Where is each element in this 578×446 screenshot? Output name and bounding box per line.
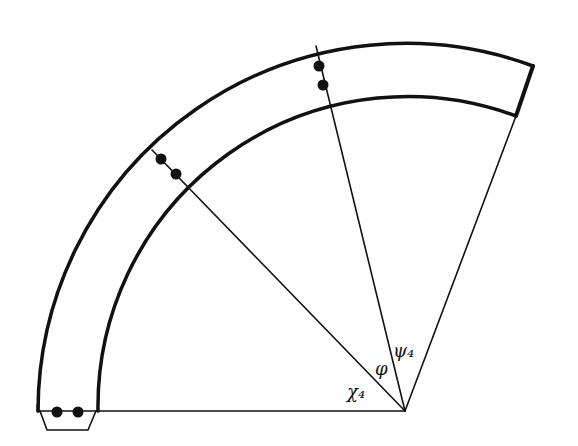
outer-arc — [38, 43, 533, 411]
label-psi4: ψ₄ — [393, 340, 414, 361]
inner-arc — [98, 97, 516, 411]
dot-middle-1 — [156, 154, 167, 165]
radial-line-middle — [152, 150, 405, 411]
dot-upper-1 — [314, 61, 325, 72]
left-foot-cap — [40, 411, 96, 430]
radial-line-right — [405, 116, 516, 411]
label-phi: φ — [375, 358, 388, 379]
right-end-cap — [516, 66, 533, 116]
dot-upper-2 — [318, 80, 329, 91]
arc-sector-diagram: χ₄ φ ψ₄ — [0, 0, 578, 446]
dot-base-2 — [73, 407, 84, 418]
dot-middle-2 — [171, 169, 182, 180]
label-chi4: χ₄ — [345, 381, 365, 402]
dot-base-1 — [52, 407, 63, 418]
